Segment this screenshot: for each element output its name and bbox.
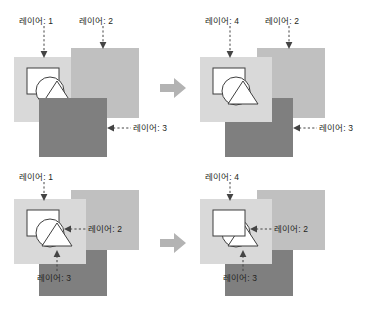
right-arrow-icon [160,78,186,98]
shape-square [213,210,245,236]
label-layer-4: 레이어: 4 [205,17,239,26]
leader-line-layer3 [107,125,131,132]
label-layer-2: 레이어: 2 [274,225,308,234]
label-layer-2: 레이어: 2 [265,17,299,26]
transition-arrow-bottom [160,233,186,253]
leader-line-layer4 [227,26,234,58]
leader-line-layer1 [41,182,48,201]
label-layer-3: 레이어: 3 [223,274,257,283]
right-arrow-icon [160,233,186,253]
label-layer-1: 레이어: 1 [19,17,53,26]
label-layer-3: 레이어: 3 [133,124,167,133]
panel-bottom-left: 레이어: 1 레이어: 2 레이어: 3 [0,157,186,314]
panel-bottom-right: 레이어: 4 레이어: 2 레이어: 3 [186,157,372,314]
diagram-root: 레이어: 1 레이어: 2 레이어: 3 [0,0,372,314]
leader-line-layer2 [286,26,293,49]
label-layer-2: 레이어: 2 [88,225,122,234]
panel-top-right: 레이어: 4 레이어: 2 레이어: 3 [186,0,372,157]
label-layer-4: 레이어: 4 [205,173,239,182]
label-layer-3: 레이어: 3 [319,124,353,133]
label-layer-1: 레이어: 1 [19,173,53,182]
layer-dark-rect [39,98,107,157]
label-layer-2: 레이어: 2 [79,17,113,26]
leader-line-layer1 [41,26,48,58]
panel-top-left: 레이어: 1 레이어: 2 레이어: 3 [0,0,186,157]
leader-line-layer3 [293,125,317,132]
transition-arrow-top [160,78,186,98]
label-layer-3: 레이어: 3 [37,274,71,283]
leader-line-layer2 [100,26,107,49]
leader-line-layer4 [227,182,234,201]
